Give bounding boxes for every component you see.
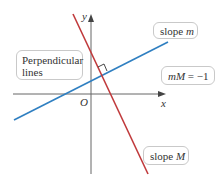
product-lhs: mM [168, 70, 185, 82]
slope-M-var: M [176, 150, 185, 162]
product-rhs: = −1 [185, 70, 208, 82]
product-label: mM = −1 [161, 66, 215, 85]
slope-m-label: slope m [153, 22, 198, 39]
y-axis-label: y [81, 10, 87, 22]
y-axis-arrow-icon [88, 14, 94, 22]
perpendicular-lines-label: Perpendicular lines [16, 50, 83, 80]
x-axis-label: x [160, 97, 166, 109]
slope-M-label: slope M [143, 146, 189, 165]
slope-m-var: m [186, 25, 194, 37]
slope-M-text: slope [150, 150, 176, 162]
perpendicular-line1: Perpendicular [22, 54, 82, 66]
slope-m-text: slope [160, 25, 186, 37]
perpendicular-line2: lines [22, 66, 82, 78]
origin-label: O [80, 96, 88, 108]
